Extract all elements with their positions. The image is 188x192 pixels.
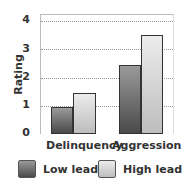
bar-aggression-low-lead	[119, 65, 141, 134]
y-tick-1: 1	[14, 99, 30, 111]
legend-item-high-lead: High lead	[98, 160, 182, 178]
legend-item-low-lead: Low lead	[18, 160, 98, 178]
legend-label-high-lead: High lead	[123, 163, 182, 176]
legend-swatch-high-lead	[98, 160, 116, 178]
y-tick-2: 2	[14, 71, 30, 83]
gridline-4	[41, 21, 173, 22]
y-tick-0: 0	[14, 127, 30, 139]
y-tick-3: 3	[14, 43, 30, 55]
bar-delinquency-low-lead	[51, 107, 73, 134]
bar-delinquency-high-lead	[73, 93, 96, 134]
x-tick-aggression: Aggression	[112, 139, 174, 152]
x-tick-delinquency: Delinquency	[46, 139, 102, 152]
plot-area	[40, 14, 174, 134]
bar-aggression-high-lead	[141, 35, 163, 134]
legend-swatch-low-lead	[18, 160, 36, 178]
y-tick-4: 4	[14, 14, 30, 26]
legend-label-low-lead: Low lead	[43, 163, 98, 176]
